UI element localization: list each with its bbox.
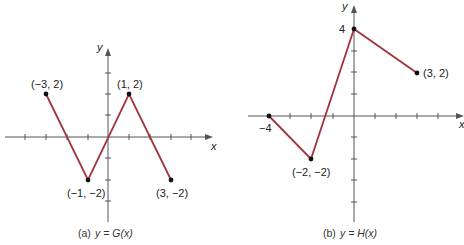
label-a3: (1, 2) xyxy=(117,78,143,90)
point-b2 xyxy=(309,157,314,162)
label-b2: (−2, −2) xyxy=(292,166,331,178)
graph-b: −4 (−2, −2) 4 (3, 2) x y (b) y = H(x) xyxy=(248,0,464,239)
label-a2: (−1, −2) xyxy=(67,187,106,199)
point-a1 xyxy=(44,92,49,97)
caption-b-prefix: (b) xyxy=(323,227,336,239)
h-curve xyxy=(269,29,417,159)
y-axis-label: y xyxy=(96,41,104,53)
point-a2 xyxy=(86,178,91,183)
x-axis-label: x xyxy=(458,118,464,130)
caption-b-eq: y = H(x) xyxy=(339,227,377,239)
label-b3: 4 xyxy=(339,23,345,35)
graph-a: (−3, 2) (−1, −2) (1, 2) (3, −2) x y (a) … xyxy=(5,41,217,239)
point-b1 xyxy=(267,114,272,119)
y-axis-arrow-icon xyxy=(351,5,357,13)
label-b4: (3, 2) xyxy=(423,67,449,79)
point-b4 xyxy=(415,71,420,76)
caption-a-eq: y = G(x) xyxy=(94,227,133,239)
label-b1: −4 xyxy=(259,122,272,134)
point-a4 xyxy=(169,178,174,183)
point-b3 xyxy=(352,27,357,32)
y-axis-arrow-icon xyxy=(105,48,111,56)
x-axis-label: x xyxy=(210,140,217,152)
label-a4: (3, −2) xyxy=(156,187,188,199)
point-a3 xyxy=(127,92,132,97)
label-a1: (−3, 2) xyxy=(31,78,63,90)
figure: (−3, 2) (−1, −2) (1, 2) (3, −2) x y (a) … xyxy=(0,0,464,245)
y-axis-label: y xyxy=(341,0,349,12)
caption-a-prefix: (a) xyxy=(78,227,91,239)
